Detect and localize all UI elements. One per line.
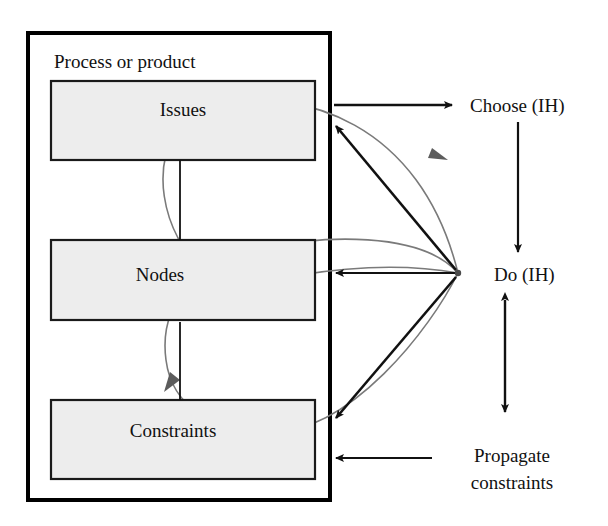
- container-title: Process or product: [54, 51, 196, 72]
- arrow-do-to-issues: [336, 126, 456, 270]
- label-choose: Choose (IH): [470, 95, 564, 117]
- box-constraints-label: Constraints: [130, 420, 217, 441]
- loop-arrowhead-upper-right: [428, 148, 448, 160]
- label-do: Do (IH): [494, 264, 555, 286]
- process-product-diagram: Issues Nodes Constraints Process or prod…: [0, 0, 608, 526]
- box-nodes-label: Nodes: [136, 264, 185, 285]
- box-issues-label: Issues: [160, 99, 206, 120]
- box-issues[interactable]: [51, 81, 315, 160]
- label-propagate-line1: Propagate: [474, 445, 550, 466]
- arrow-do-to-constraints: [336, 277, 456, 418]
- do-hub-node: [455, 270, 461, 276]
- diagram-canvas: Issues Nodes Constraints Process or prod…: [0, 0, 608, 526]
- label-propagate-line2: constraints: [471, 472, 553, 493]
